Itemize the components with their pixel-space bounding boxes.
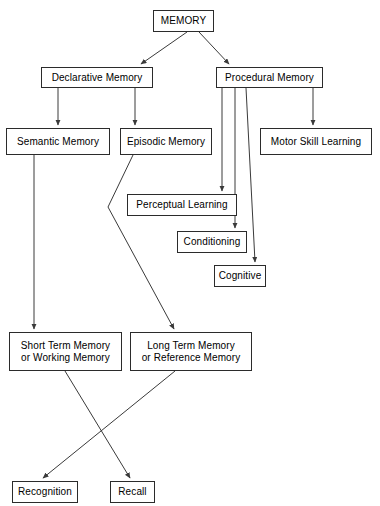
edge-short-term-recall [65,371,130,478]
edge-memory-procedural [199,32,229,64]
node-procedural[interactable]: Procedural Memory [216,67,323,88]
node-short_term[interactable]: Short Term Memory or Working Memory [9,332,122,371]
node-recall[interactable]: Recall [110,481,155,503]
node-episodic[interactable]: Episodic Memory [120,128,212,155]
edge-episodic-long-term [108,155,174,329]
edge-procedural-cognitive [246,88,255,262]
node-semantic[interactable]: Semantic Memory [6,128,110,155]
node-perceptual[interactable]: Perceptual Learning [127,194,237,216]
node-conditioning[interactable]: Conditioning [177,231,247,253]
node-long_term[interactable]: Long Term Memory or Reference Memory [130,332,252,371]
node-motor[interactable]: Motor Skill Learning [260,128,372,155]
node-cognitive[interactable]: Cognitive [214,265,266,287]
node-memory[interactable]: MEMORY [153,10,214,32]
edge-group [34,32,313,478]
edge-memory-declarative [141,32,187,64]
node-declarative[interactable]: Declarative Memory [41,67,153,88]
edge-long-term-recognition [43,371,175,478]
node-recognition[interactable]: Recognition [12,481,78,503]
memory-taxonomy-diagram: MEMORYDeclarative MemoryProcedural Memor… [0,0,380,506]
